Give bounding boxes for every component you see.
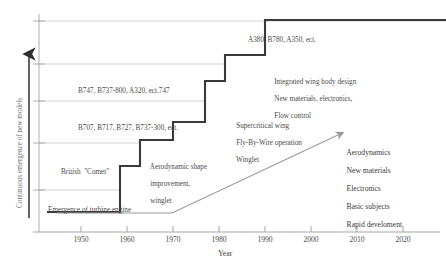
annotation-models-comet: British "Comet" [61, 168, 109, 176]
annotation-tech-aero: Aerodynamic shape improvement, winglet [143, 155, 207, 214]
tech-aero-line1: Aerodynamic shape [150, 163, 207, 171]
legend-item-new-materials: New materials [347, 166, 391, 175]
tech-super-line2: Fly-By-Wire operation [236, 139, 302, 147]
x-tick-2000: 2000 [291, 236, 331, 245]
legend-item-basic-subjects: Basic subjects [347, 202, 390, 211]
annotation-models-a380: A380, B780, A350, ect. [248, 36, 316, 44]
legend-block: Aerodynamics New materials Electronics B… [339, 140, 402, 238]
y-axis [33, 14, 45, 232]
tech-super-line3: Winglet [236, 156, 259, 164]
annotation-turbine-engine: Emergence of turbine engine [48, 206, 131, 214]
tech-aero-line3: winglet [150, 197, 172, 205]
tech-integ-line3: Flow control [274, 112, 311, 120]
legend-item-rapid-development: Rapid develoment [347, 220, 402, 229]
y-axis-title: Continuous emergence of new models [16, 98, 24, 208]
legend-item-electronics: Electronics [347, 184, 381, 193]
x-tick-1950: 1950 [61, 236, 101, 245]
x-tick-1970: 1970 [153, 236, 193, 245]
figure-container: Continuous emergence of new models Year … [0, 0, 446, 275]
tech-aero-line2: improvement, [150, 180, 190, 188]
x-axis-title: Year [218, 249, 232, 258]
annotation-models-b747: B747, B737-800, A320, ect.747 [78, 87, 170, 95]
tech-integ-line1: Integrated wing body design [274, 78, 356, 86]
tech-integ-line2: New materials, electronics, [274, 95, 352, 103]
x-tick-1980: 1980 [199, 236, 239, 245]
legend-item-aerodynamics: Aerodynamics [346, 148, 390, 157]
x-tick-1990: 1990 [245, 236, 285, 245]
annotation-models-b707: B707, B717, B727, B737-300, ect. [78, 124, 178, 132]
x-tick-1960: 1960 [107, 236, 147, 245]
annotation-tech-integrated: Integrated wing body design New material… [267, 70, 356, 129]
